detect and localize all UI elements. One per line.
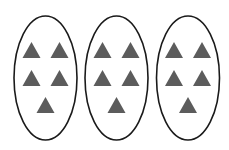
triangle-icon [165, 70, 183, 86]
triangle-icon [51, 70, 69, 86]
group-2 [85, 16, 148, 140]
group-ellipse [85, 16, 148, 140]
group-ellipse [157, 16, 220, 140]
triangle-icon [23, 70, 41, 86]
triangle-icon [23, 42, 41, 58]
group-3 [157, 16, 220, 140]
group-ellipse [14, 16, 77, 140]
triangle-icon [193, 42, 211, 58]
triangle-icon [122, 70, 140, 86]
triangle-icon [179, 97, 197, 113]
triangle-icon [51, 42, 69, 58]
triangle-icon [37, 97, 55, 113]
triangle-icon [193, 70, 211, 86]
group-1 [14, 16, 77, 140]
triangle-icon [94, 42, 112, 58]
grouping-diagram [0, 0, 229, 150]
triangle-icon [165, 42, 183, 58]
triangle-icon [94, 70, 112, 86]
triangle-icon [108, 97, 126, 113]
triangle-icon [122, 42, 140, 58]
